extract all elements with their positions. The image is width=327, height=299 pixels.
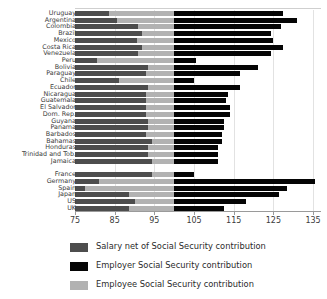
x-axis-tick-label: 85 — [110, 216, 120, 225]
bar-segment-employee — [148, 119, 174, 124]
bar-row — [75, 145, 321, 150]
bar-row — [75, 192, 321, 197]
bar-segment-employee — [148, 145, 174, 150]
x-axis-tick — [313, 212, 314, 215]
bar-segment-salary — [75, 159, 152, 164]
bar-segment-salary — [75, 186, 85, 191]
bar-row — [75, 139, 321, 144]
bar-segment-salary — [75, 105, 146, 110]
bar-row — [75, 18, 321, 23]
bar-segment-employee — [146, 132, 174, 137]
bar-row — [75, 51, 321, 56]
plot-top-border — [75, 8, 321, 9]
bar-segment-employer — [174, 71, 239, 76]
bar-segment-salary — [75, 31, 142, 36]
bar-segment-employer — [174, 31, 271, 36]
bar-row — [75, 132, 321, 137]
bar-segment-employer — [174, 105, 230, 110]
x-axis-tick — [75, 212, 76, 215]
bar-segment-employee — [152, 172, 174, 177]
bar-segment-employee — [129, 192, 175, 197]
chart-root: 758595105115125135 Salary net of Social … — [0, 0, 327, 299]
bar-segment-employee — [85, 186, 174, 191]
bar-row — [75, 71, 321, 76]
bar-segment-employer — [174, 85, 239, 90]
bar-segment-salary — [75, 51, 138, 56]
bar-segment-salary — [75, 125, 148, 130]
bar-row — [75, 112, 321, 117]
bar-segment-employer — [174, 38, 273, 43]
bar-row — [75, 199, 321, 204]
bar-segment-employee — [129, 206, 175, 211]
bar-row — [75, 85, 321, 90]
bar-segment-employer — [174, 192, 279, 197]
bar-segment-employer — [174, 18, 297, 23]
bar-segment-employer — [174, 179, 315, 184]
bar-row — [75, 125, 321, 130]
x-axis-tick-label: 75 — [70, 216, 80, 225]
bar-row — [75, 206, 321, 211]
bar-segment-employer — [174, 186, 287, 191]
bar-segment-employee — [142, 45, 175, 50]
bar-segment-employer — [174, 51, 271, 56]
bar-segment-employee — [148, 152, 174, 157]
bar-row — [75, 105, 321, 110]
bar-segment-employer — [174, 11, 283, 16]
bar-segment-employer — [174, 125, 224, 130]
bar-row — [75, 98, 321, 103]
legend-item-label: Salary net of Social Security contributi… — [96, 241, 266, 251]
x-axis-tick-label: 115 — [226, 216, 241, 225]
x-axis-tick — [273, 212, 274, 215]
bar-segment-salary — [75, 199, 135, 204]
bar-segment-employer — [174, 159, 218, 164]
bar-segment-salary — [75, 24, 138, 29]
x-axis-tick — [194, 212, 195, 215]
bar-segment-employee — [137, 38, 175, 43]
bar-row — [75, 179, 321, 184]
bar-segment-salary — [75, 71, 146, 76]
bar-segment-employee — [142, 31, 174, 36]
bar-segment-salary — [75, 119, 148, 124]
bar-segment-employee — [148, 85, 174, 90]
bar-segment-employer — [174, 45, 283, 50]
x-axis-tick-label: 135 — [305, 216, 320, 225]
bar-row — [75, 58, 321, 63]
bar-segment-salary — [75, 145, 148, 150]
x-axis-tick — [154, 212, 155, 215]
bar-row — [75, 186, 321, 191]
bar-segment-employer — [174, 65, 257, 70]
bar-segment-salary — [75, 192, 129, 197]
bar-row — [75, 172, 321, 177]
bar-segment-employer — [174, 119, 224, 124]
bar-segment-salary — [75, 11, 109, 16]
bar-segment-employee — [146, 98, 174, 103]
bar-segment-salary — [75, 112, 146, 117]
bar-segment-employee — [109, 11, 174, 16]
bar-segment-employee — [138, 51, 174, 56]
bar-segment-employer — [174, 139, 222, 144]
bar-segment-salary — [75, 139, 152, 144]
bar-segment-employee — [148, 65, 174, 70]
bar-segment-employee — [117, 18, 175, 23]
bar-row — [75, 38, 321, 43]
x-axis-tick-label: 125 — [266, 216, 281, 225]
legend-swatch-employer — [70, 262, 88, 271]
x-axis-tick — [115, 212, 116, 215]
bar-segment-salary — [75, 78, 119, 83]
bar-row — [75, 45, 321, 50]
legend-item-label: Employer Social Security contribution — [96, 260, 252, 270]
bar-row — [75, 92, 321, 97]
bar-row — [75, 78, 321, 83]
x-axis-tick — [234, 212, 235, 215]
bar-segment-employer — [174, 112, 230, 117]
bar-row — [75, 159, 321, 164]
bar-segment-employer — [174, 145, 218, 150]
bar-segment-salary — [75, 179, 99, 184]
bar-segment-employee — [148, 125, 174, 130]
x-axis-tick-label: 105 — [186, 216, 201, 225]
bar-segment-employer — [174, 98, 226, 103]
x-axis-line — [75, 211, 321, 212]
y-axis-category-label: UK — [67, 205, 76, 211]
bar-segment-salary — [75, 18, 117, 23]
bar-segment-salary — [75, 38, 137, 43]
